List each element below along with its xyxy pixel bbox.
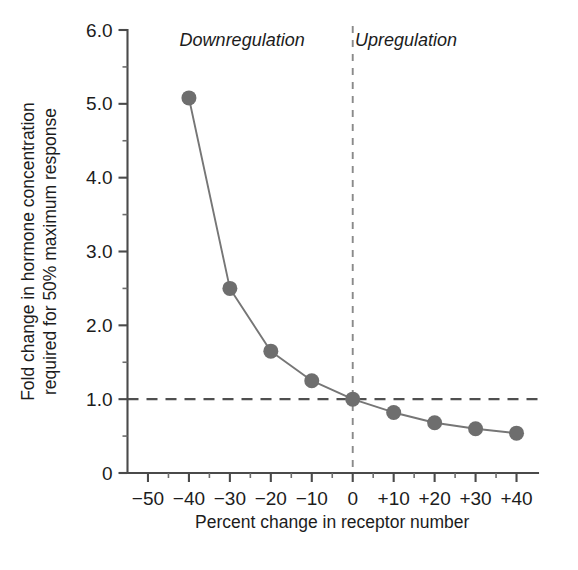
data-point-0[interactable] — [345, 392, 360, 407]
data-point--30[interactable] — [222, 281, 237, 296]
y-axis-title-line2: required for 50% maximum response — [40, 108, 60, 395]
x-tick-label--50: −50 — [132, 488, 164, 509]
x-tick-label-0: 0 — [347, 488, 358, 509]
data-point--10[interactable] — [304, 373, 319, 388]
x-tick-label--30: −30 — [214, 488, 246, 509]
data-point-40[interactable] — [509, 426, 524, 441]
x-tick-label--40: −40 — [173, 488, 205, 509]
y-tick-label-5.0: 5.0 — [86, 93, 112, 114]
x-tick-label-10: +10 — [378, 488, 410, 509]
data-point--40[interactable] — [181, 90, 196, 105]
y-tick-label-3.0: 3.0 — [86, 241, 112, 262]
x-axis-title: Percent change in receptor number — [195, 512, 469, 532]
line-chart: 01.02.03.04.05.06.0−50−40−30−20−100+10+2… — [0, 0, 578, 570]
annotation-downregulation: Downregulation — [180, 30, 305, 50]
x-tick-label-30: +30 — [459, 488, 491, 509]
y-tick-label-0: 0 — [102, 463, 113, 484]
y-tick-label-6.0: 6.0 — [86, 20, 112, 41]
data-point--20[interactable] — [263, 344, 278, 359]
y-tick-label-4.0: 4.0 — [86, 167, 112, 188]
annotation-upregulation: Upregulation — [355, 30, 457, 50]
x-tick-label--10: −10 — [296, 488, 328, 509]
y-tick-label-2.0: 2.0 — [86, 315, 112, 336]
x-tick-label-40: +40 — [500, 488, 532, 509]
data-point-10[interactable] — [386, 405, 401, 420]
x-tick-label--20: −20 — [255, 488, 287, 509]
data-point-30[interactable] — [468, 421, 483, 436]
y-tick-label-1.0: 1.0 — [86, 389, 112, 410]
x-tick-label-20: +20 — [419, 488, 451, 509]
data-point-20[interactable] — [427, 415, 442, 430]
y-axis-title-line1: Fold change in hormone concentration — [18, 102, 38, 401]
chart-figure: 01.02.03.04.05.06.0−50−40−30−20−100+10+2… — [0, 0, 578, 570]
